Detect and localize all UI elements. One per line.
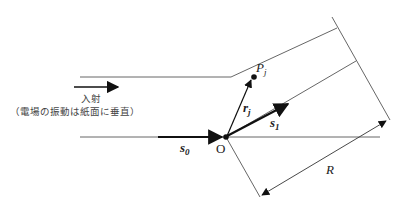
origin-label: O [216, 141, 225, 156]
vector-rj-label: rj [243, 100, 251, 117]
distance-label: R [325, 162, 334, 177]
incident-note: （電場の振動は紙面に垂直） [10, 106, 140, 117]
distance-arrow [262, 121, 386, 195]
scattering-diagram: Pj O rj s1 s0 R 入射 （電場の振動は紙面に垂直） [0, 0, 410, 210]
origin-point [223, 134, 229, 140]
scattered-ray-from-pj [231, 28, 337, 77]
vector-s1-label: s1 [269, 115, 280, 132]
perpendicular-line [226, 137, 260, 197]
point-pj-label: Pj [255, 60, 267, 77]
detector-plane [332, 17, 390, 120]
incident-label: 入射 [81, 93, 101, 104]
point-pj [251, 74, 257, 80]
vector-s0-label: s0 [179, 140, 190, 157]
